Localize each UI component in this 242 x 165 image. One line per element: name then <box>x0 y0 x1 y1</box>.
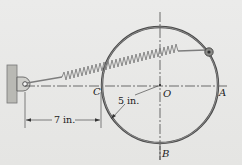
pin-icon <box>23 82 28 87</box>
dimension-5in-label: 5 in. <box>118 96 139 106</box>
collar <box>205 48 213 56</box>
label-o: O <box>163 89 171 99</box>
spring-ring-diagram: C O A B 7 in. 5 in. <box>0 0 242 165</box>
center-point <box>159 84 161 86</box>
wall-bracket <box>7 65 30 103</box>
radius-leader-upper <box>135 86 158 95</box>
label-a: A <box>219 88 226 98</box>
label-b: B <box>162 149 169 159</box>
spring <box>27 44 206 83</box>
dimension-7in-label: 7 in. <box>54 115 75 125</box>
diagram-canvas <box>0 0 242 165</box>
label-c: C <box>93 87 101 97</box>
